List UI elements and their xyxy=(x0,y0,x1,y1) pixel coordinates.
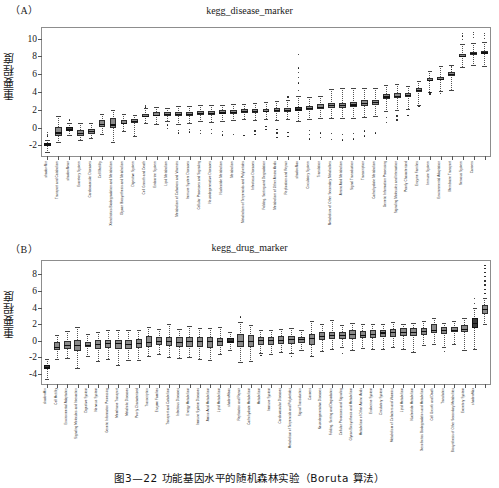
box-whisker-cap xyxy=(264,119,269,120)
panel-b-plot-area: -4-202468 xyxy=(41,260,491,385)
box-outlier-point xyxy=(342,353,343,354)
x-tick-mark xyxy=(397,156,398,160)
box-median-line xyxy=(472,323,478,324)
box-median-line xyxy=(309,338,315,339)
x-axis-category-label: Translation xyxy=(318,161,321,177)
x-tick-mark xyxy=(190,156,191,160)
box-whisker-cap xyxy=(259,330,263,331)
box-median-line xyxy=(176,342,182,343)
box-whisker-cap xyxy=(391,322,395,323)
box-whisker-cap xyxy=(462,350,466,351)
x-axis-category-label: shadowMin xyxy=(45,161,48,178)
box-whisker-cap xyxy=(318,118,323,119)
box-outlier-point xyxy=(484,33,485,34)
x-tick-mark xyxy=(452,156,453,160)
box-whisker-cap xyxy=(242,119,247,120)
y-tick-mark xyxy=(38,110,42,111)
box-median-line xyxy=(481,52,488,53)
box-outlier-point xyxy=(265,129,266,130)
box-outlier-point xyxy=(484,293,485,294)
x-tick-mark xyxy=(430,156,431,160)
x-tick-mark xyxy=(91,156,92,160)
y-tick-mark xyxy=(38,357,42,358)
box-whisker-cap xyxy=(340,347,344,348)
box-whisker-cap xyxy=(176,106,181,107)
box-whisker-cap xyxy=(238,322,242,323)
x-axis-category-label: Digestive System xyxy=(85,388,88,413)
panel-a-plot-area: -20246810 xyxy=(41,27,491,157)
x-axis-category-label: Immune System xyxy=(427,161,430,185)
box-whisker-cap xyxy=(482,42,487,43)
box-outlier-point xyxy=(309,130,310,131)
y-tick-label: 2 xyxy=(32,105,37,115)
x-axis-category-label: Replication and Repair xyxy=(285,161,288,195)
x-axis-category-label: Xenobiotics Biodegradation and Metabolis… xyxy=(110,161,113,225)
box-median-line xyxy=(85,345,91,346)
box-whisker-cap xyxy=(279,329,283,330)
box-outlier-point xyxy=(211,129,212,130)
box-whisker-cap xyxy=(228,332,232,333)
box-whisker-cap xyxy=(269,330,273,331)
box-outlier-point xyxy=(462,39,463,40)
x-axis-category-label: Nucleotide Metabolism xyxy=(411,388,414,420)
box-whisker-cap xyxy=(395,84,400,85)
box-outlier-point xyxy=(200,130,201,131)
box-whisker-cap xyxy=(45,140,50,141)
box-whisker-cap xyxy=(45,152,50,153)
box-whisker-cap xyxy=(259,353,263,354)
box-outlier-point xyxy=(473,32,474,33)
box-median-line xyxy=(248,341,254,342)
box-outlier-point xyxy=(320,132,321,133)
x-axis-category-label: Energy Metabolism xyxy=(187,388,190,415)
box-median-line xyxy=(437,79,444,80)
x-tick-mark xyxy=(157,156,158,160)
box-whisker-cap xyxy=(177,358,181,359)
box-whisker-cap xyxy=(167,357,171,358)
box-whisker-cap xyxy=(198,121,203,122)
x-axis-category-label: Folding, Sorting and Degradation xyxy=(263,161,266,210)
box-whisker-cap xyxy=(330,349,334,350)
box-whisker-cap xyxy=(361,324,365,325)
box-outlier-point xyxy=(364,135,365,136)
x-tick-mark xyxy=(233,156,234,160)
x-axis-category-label: Carbohydrate Metabolism xyxy=(373,161,376,199)
box-whisker-cap xyxy=(78,140,83,141)
box-whisker xyxy=(454,321,455,343)
box-median-line xyxy=(207,341,213,342)
box-whisker-cap xyxy=(340,118,345,119)
box-median-line xyxy=(295,109,302,110)
y-tick-mark xyxy=(38,308,42,309)
box-outlier-point xyxy=(287,96,288,97)
box-outlier-point xyxy=(320,137,321,138)
x-tick-mark xyxy=(299,156,300,160)
box-median-line xyxy=(400,332,406,333)
box-whisker-cap xyxy=(165,108,170,109)
box-whisker-cap xyxy=(483,298,487,299)
box-median-line xyxy=(208,113,215,114)
box-outlier-point xyxy=(473,34,474,35)
x-axis-category-label: Environmental Adaptation xyxy=(438,161,441,199)
box-whisker-cap xyxy=(275,120,280,121)
box-median-line xyxy=(197,341,203,342)
box-median-line xyxy=(186,114,193,115)
x-axis-category-label: Nervous System xyxy=(460,161,463,185)
y-tick-label: 4 xyxy=(32,87,37,97)
box-whisker-cap xyxy=(432,344,436,345)
box-whisker-cap xyxy=(406,109,411,110)
box-whisker-cap xyxy=(299,330,303,331)
y-tick-label: 6 xyxy=(32,69,37,79)
box-whisker-cap xyxy=(289,328,293,329)
box-outlier-point xyxy=(178,132,179,133)
box-outlier-point xyxy=(298,54,299,55)
box-whisker-cap xyxy=(296,96,301,97)
x-axis-category-label: Metabolism of Other Secondary Metabolite… xyxy=(329,161,332,225)
box-median-line xyxy=(339,105,346,106)
x-axis-category-label: Glycan Biosynthesis and Metabolism xyxy=(350,388,353,440)
x-axis-category-label: Environmental Adaptation xyxy=(65,388,68,425)
box-whisker-cap xyxy=(362,88,367,89)
box-outlier-point xyxy=(396,115,397,116)
box-median-line xyxy=(350,104,357,105)
x-axis-category-label: Metabolic Diseases xyxy=(126,388,129,416)
x-axis-category-label: Digestive System xyxy=(132,161,135,187)
box-whisker-cap xyxy=(86,334,90,335)
